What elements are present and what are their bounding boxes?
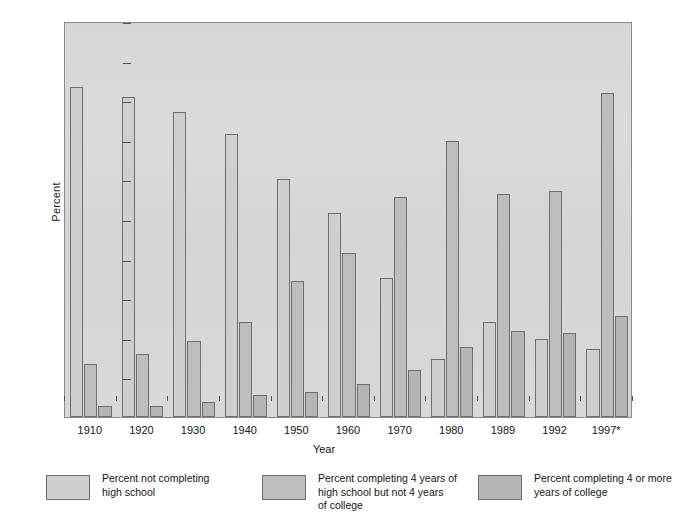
- x-tick-mark: [271, 396, 272, 401]
- bar-group: [586, 23, 628, 417]
- bar: [408, 370, 421, 417]
- bar: [202, 402, 215, 417]
- x-tick-mark: [116, 396, 117, 401]
- bar-group: [535, 23, 577, 417]
- bar: [535, 339, 548, 417]
- bar: [253, 395, 266, 417]
- y-tick-mark: [123, 300, 131, 301]
- bar: [394, 197, 407, 417]
- bar: [328, 213, 341, 417]
- bar: [497, 194, 510, 417]
- y-axis-title: Percent: [50, 142, 62, 262]
- y-tick-mark: [123, 221, 131, 222]
- y-tick-mark: [123, 261, 131, 262]
- x-axis-title: Year: [0, 443, 648, 455]
- bar: [431, 359, 444, 417]
- y-tick-mark: [123, 340, 131, 341]
- bar: [511, 331, 524, 417]
- legend-swatch: [478, 475, 522, 500]
- bar-group: [225, 23, 267, 417]
- bar: [601, 93, 614, 417]
- bar: [380, 278, 393, 417]
- bar-group: [173, 23, 215, 417]
- x-tick-mark: [219, 396, 220, 401]
- bar: [84, 364, 97, 417]
- legend-swatch: [46, 475, 90, 500]
- x-tick-mark: [322, 396, 323, 401]
- bar: [277, 179, 290, 417]
- bar: [122, 97, 135, 417]
- bar: [357, 384, 370, 417]
- bar: [136, 354, 149, 417]
- bar-group: [277, 23, 319, 417]
- legend-swatch: [262, 475, 306, 500]
- bar: [563, 333, 576, 417]
- plot-area: 102030405060708090100: [64, 22, 632, 418]
- bar: [98, 406, 111, 417]
- bar: [225, 134, 238, 417]
- bar: [173, 112, 186, 417]
- y-tick-mark: [123, 181, 131, 182]
- legend-label: Percent completing 4 or more years of co…: [534, 472, 676, 499]
- y-tick-mark: [123, 142, 131, 143]
- bar: [150, 406, 163, 417]
- bar: [239, 322, 252, 417]
- x-tick-mark: [374, 396, 375, 401]
- x-tick-mark: [425, 396, 426, 401]
- x-tick-mark: [477, 396, 478, 401]
- x-tick-mark: [64, 396, 65, 401]
- bar: [446, 141, 459, 417]
- bar-group: [483, 23, 525, 417]
- bar-group: [70, 23, 112, 417]
- bar-group: [122, 23, 164, 417]
- legend: Percent not completing high schoolPercen…: [0, 472, 648, 524]
- y-tick-mark: [123, 379, 131, 380]
- x-tick-label: 1997*: [571, 424, 641, 436]
- bar-group: [328, 23, 370, 417]
- y-tick-mark: [123, 23, 131, 24]
- y-tick-mark: [123, 102, 131, 103]
- x-tick-mark: [632, 396, 633, 401]
- bar: [342, 253, 355, 417]
- bar: [187, 341, 200, 417]
- x-tick-mark: [529, 396, 530, 401]
- bar: [483, 322, 496, 417]
- bar: [305, 392, 318, 417]
- y-tick-mark: [123, 63, 131, 64]
- x-tick-mark: [580, 396, 581, 401]
- x-tick-mark: [167, 396, 168, 401]
- bar: [460, 347, 473, 417]
- bar-group: [380, 23, 422, 417]
- bar: [291, 281, 304, 417]
- bar: [70, 87, 83, 417]
- bar-group: [431, 23, 473, 417]
- bar: [586, 349, 599, 418]
- bar: [615, 316, 628, 417]
- bar: [549, 191, 562, 417]
